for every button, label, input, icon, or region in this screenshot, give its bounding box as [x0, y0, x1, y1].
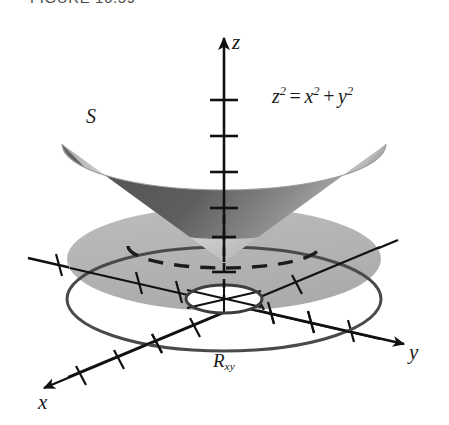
equation-plus: +	[320, 85, 338, 107]
equation-term2-base: y	[338, 85, 347, 107]
surface-label-s: S	[86, 106, 96, 126]
equation-term2-exponent: 2	[347, 84, 353, 98]
axis-label-z: z	[232, 32, 240, 53]
region-label-subscript: xy	[225, 360, 235, 372]
region-label-base: R	[213, 350, 225, 371]
cone-equation-label: z2=x2+y2	[272, 86, 353, 106]
figure-container: FIGURE 16.59	[0, 0, 449, 425]
axis-label-x: x	[38, 392, 47, 413]
equation-term1-exponent: 2	[313, 84, 319, 98]
equation-lhs-base: z	[272, 85, 280, 107]
region-label-rxy: Rxy	[213, 351, 235, 370]
axis-label-y: y	[409, 342, 418, 363]
equation-equals: =	[286, 85, 304, 107]
